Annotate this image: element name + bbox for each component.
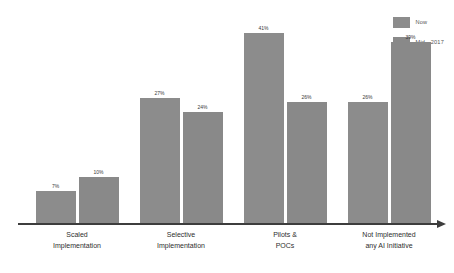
x-tick-label: Scaled Implementation: [34, 230, 120, 251]
bar-now: [244, 33, 284, 223]
x-tick-label-line1: Not Implemented: [346, 230, 432, 241]
x-tick-label-line2: POCs: [242, 241, 328, 252]
bar-groups: 7% 10% 27% 24%: [34, 14, 432, 223]
plot-area: 7% 10% 27% 24%: [34, 14, 432, 223]
bar-value-label: 26%: [362, 95, 372, 100]
bar-group: 26% 39%: [346, 14, 432, 223]
bar-now: [348, 102, 388, 223]
bar-slot: 27%: [138, 14, 181, 223]
bar-mid-2017: [287, 102, 327, 223]
bar-group: 41% 26%: [242, 14, 328, 223]
x-axis-arrow-icon: [437, 220, 446, 228]
bar-value-label: 41%: [258, 26, 268, 31]
bar-slot: 26%: [285, 14, 328, 223]
x-tick-label-line2: any AI Initiative: [346, 241, 432, 252]
bar-now: [36, 191, 76, 224]
x-tick-label-line2: Implementation: [138, 241, 224, 252]
x-tick-label: Pilots & POCs: [242, 230, 328, 251]
x-tick-label-line1: Scaled: [34, 230, 120, 241]
bar-value-label: 39%: [405, 35, 415, 40]
bar-group: 27% 24%: [138, 14, 224, 223]
bar-value-label: 10%: [93, 170, 103, 175]
bar-slot: 26%: [346, 14, 389, 223]
x-tick-label-line2: Implementation: [34, 241, 120, 252]
bar-slot: 10%: [77, 14, 120, 223]
bar-mid-2017: [183, 112, 223, 223]
bar-value-label: 27%: [154, 91, 164, 96]
bar-now: [140, 98, 180, 223]
bar-slot: 39%: [389, 14, 432, 223]
bar-mid-2017: [79, 177, 119, 223]
bar-value-label: 7%: [52, 184, 59, 189]
bar-value-label: 24%: [197, 105, 207, 110]
x-axis-tick-labels: Scaled Implementation Selective Implemen…: [34, 230, 432, 251]
bar-slot: 24%: [181, 14, 224, 223]
bar-slot: 41%: [242, 14, 285, 223]
bar-value-label: 26%: [301, 95, 311, 100]
bar-mid-2017: [391, 42, 431, 223]
x-tick-label: Selective Implementation: [138, 230, 224, 251]
x-axis: [18, 223, 446, 226]
x-axis-line: [18, 223, 437, 225]
bar-chart: Now Mid - 2017 7% 10% 27%: [0, 0, 454, 273]
x-tick-label-line1: Selective: [138, 230, 224, 241]
bar-slot: 7%: [34, 14, 77, 223]
x-tick-label-line1: Pilots &: [242, 230, 328, 241]
x-tick-label: Not Implemented any AI Initiative: [346, 230, 432, 251]
bar-group: 7% 10%: [34, 14, 120, 223]
